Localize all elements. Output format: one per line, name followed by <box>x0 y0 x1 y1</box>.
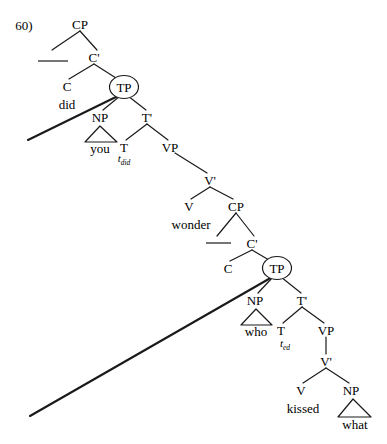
node-label-vp2: VP <box>318 324 335 337</box>
branch-vp1-vbar1 <box>175 153 207 173</box>
node-label-cbar1: C' <box>88 51 99 64</box>
branch-tbar2-vp2 <box>302 307 324 323</box>
branch-tbar1-vp1 <box>147 124 168 140</box>
word-kissed: kissed <box>287 402 320 415</box>
branch-vbar1-v1 <box>191 187 210 199</box>
trace-subscript: ed <box>283 343 290 352</box>
node-label-v2: V <box>296 384 305 397</box>
node-label-c2: C <box>224 262 233 275</box>
tri-what <box>338 399 371 417</box>
node-label-t2: T <box>277 324 285 337</box>
trace-t-did: tdid <box>118 153 131 167</box>
node-label-np2: NP <box>247 294 264 307</box>
tree-diagram-figure: 60) CPC'CTPNPT'TVPV'VCPC'CTPNPT'TVPV'VNP… <box>0 0 387 444</box>
branch-vbar2-np3 <box>326 368 349 383</box>
branch-tp1-tbar1 <box>128 96 146 110</box>
word-did: did <box>59 98 76 111</box>
example-number: 60) <box>15 19 32 32</box>
circled-node-outlines <box>110 76 292 280</box>
branch-cbar1-tp1 <box>94 64 116 78</box>
branch-tbar1-t1 <box>126 124 147 140</box>
word-you: you <box>90 142 110 155</box>
branch-cbar1-c1 <box>69 64 94 79</box>
node-label-tbar2: T' <box>297 294 307 307</box>
node-label-np3: NP <box>343 384 360 397</box>
word-what: what <box>342 418 367 431</box>
branch-vbar1-cp2 <box>210 187 233 199</box>
trace-t-ed: ted <box>280 338 290 352</box>
node-label-vbar2: V' <box>320 355 332 368</box>
node-label-cp2: CP <box>228 200 244 213</box>
branch-vbar2-v2 <box>303 368 326 383</box>
branch-cbar2-tp2 <box>252 250 269 260</box>
node-label-cp1: CP <box>72 18 88 31</box>
node-label-c1: C <box>63 80 72 93</box>
branch-tp2-tbar2 <box>281 277 301 293</box>
word-wonder: wonder <box>172 218 211 231</box>
node-label-tbar1: T' <box>142 111 152 124</box>
trace-subscript: did <box>121 158 131 167</box>
word-who: who <box>245 325 267 338</box>
node-label-cbar2: C' <box>246 237 257 250</box>
node-label-np1: NP <box>92 111 109 124</box>
node-label-t1: T <box>120 141 128 154</box>
move-what <box>30 276 274 416</box>
branch-cp2-cbar2 <box>236 213 254 236</box>
node-label-v1: V <box>184 200 193 213</box>
branch-cbar2-c2 <box>230 250 252 261</box>
branch-cp1-blank1 <box>52 31 80 50</box>
node-label-vp1: VP <box>162 141 179 154</box>
branch-cp2-blank2 <box>217 213 236 236</box>
branch-cp1-cbar1 <box>80 31 97 50</box>
movement-arrow-lines <box>28 94 274 416</box>
branch-tbar2-t2 <box>283 307 302 323</box>
node-label-vbar1: V' <box>204 174 216 187</box>
node-label-tp2: TP <box>269 262 284 275</box>
branch-lines <box>52 31 349 383</box>
node-label-tp1: TP <box>116 81 131 94</box>
